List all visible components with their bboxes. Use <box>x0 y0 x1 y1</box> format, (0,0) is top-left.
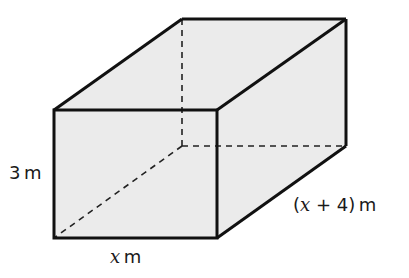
prism-drawing <box>0 0 409 278</box>
depth-open-paren: ( <box>293 194 300 215</box>
height-value: 3 <box>9 162 20 183</box>
width-label: x m <box>110 248 141 266</box>
width-unit: m <box>124 246 142 267</box>
depth-unit: m <box>359 194 377 215</box>
depth-expression: + 4) <box>310 194 355 215</box>
depth-label: (x + 4) m <box>293 196 376 214</box>
height-label: 3 m <box>9 164 42 182</box>
rectangular-prism-diagram: 3 m x m (x + 4) m <box>0 0 409 278</box>
prism-front-face <box>54 110 217 238</box>
depth-variable: x <box>300 194 310 215</box>
width-variable: x <box>110 246 120 267</box>
height-unit: m <box>24 162 42 183</box>
